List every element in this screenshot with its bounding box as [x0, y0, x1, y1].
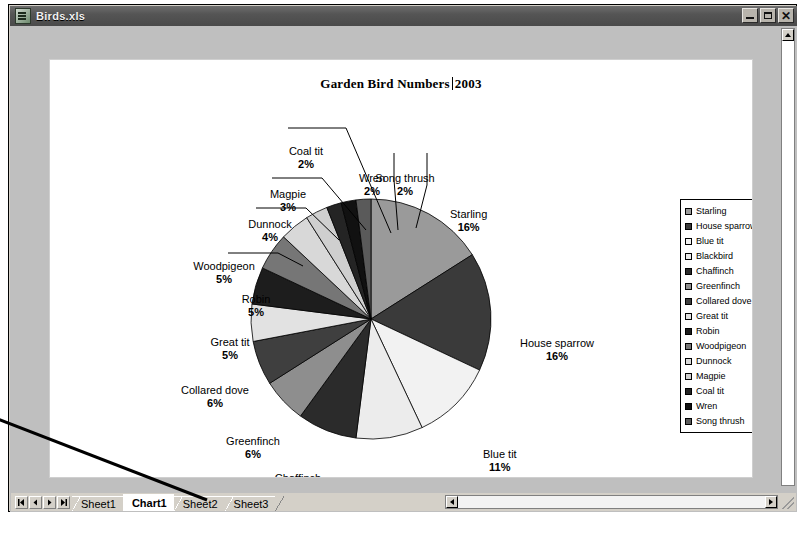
scroll-up-button[interactable] [782, 29, 794, 41]
legend-item[interactable]: Woodpigeon [685, 339, 753, 354]
close-button[interactable]: ✕ [778, 8, 794, 23]
pie-data-label[interactable]: Blue tit11% [483, 448, 517, 474]
excel-document-icon [15, 8, 31, 24]
legend-swatch-icon [685, 328, 692, 335]
pie-data-label[interactable]: House sparrow16% [520, 337, 594, 363]
legend-swatch-icon [685, 388, 692, 395]
legend-item-label: Magpie [696, 372, 726, 381]
legend-swatch-icon [685, 358, 692, 365]
legend-item[interactable]: Greenfinch [685, 279, 753, 294]
plot-area[interactable] [50, 60, 753, 478]
pie-data-label[interactable]: Chaffinch8% [275, 472, 321, 478]
sheet-tab-chart1[interactable]: Chart1 [123, 494, 174, 511]
legend-swatch-icon [685, 373, 692, 380]
last-sheet-button[interactable] [57, 496, 70, 509]
sheet-tab-sheet3[interactable]: Sheet3 [225, 496, 276, 511]
pie-data-label[interactable]: Song thrush2% [375, 172, 434, 198]
legend-swatch-icon [685, 238, 692, 245]
horizontal-scroll-track[interactable] [458, 496, 765, 508]
legend-item-label: Robin [696, 327, 720, 336]
pie-data-label-name: Song thrush [375, 172, 434, 184]
pie-data-label[interactable]: Starling16% [450, 208, 487, 234]
close-icon: ✕ [781, 10, 791, 22]
legend-item[interactable]: Blue tit [685, 234, 753, 249]
pie-data-label[interactable]: Dunnock4% [248, 218, 291, 244]
pie-data-label-name: Great tit [210, 336, 249, 348]
pie-data-label[interactable]: Coal tit2% [289, 145, 323, 171]
chevron-left-icon [450, 499, 454, 505]
legend-swatch-icon [685, 253, 692, 260]
legend-swatch-icon [685, 298, 692, 305]
legend-swatch-icon [685, 283, 692, 290]
pie-data-label[interactable]: Collared dove6% [181, 384, 249, 410]
chart-legend[interactable]: StarlingHouse sparrowBlue titBlackbirdCh… [680, 199, 753, 433]
legend-item-label: Woodpigeon [696, 342, 746, 351]
pie-data-label-percent: 5% [242, 306, 271, 319]
sheet-tab-label: Sheet2 [183, 498, 218, 510]
vertical-scrollbar[interactable] [781, 28, 795, 486]
pie-chart-svg [50, 60, 753, 478]
pie-data-label-percent: 5% [193, 273, 255, 286]
pie-data-label[interactable]: Woodpigeon5% [193, 260, 255, 286]
previous-sheet-icon [31, 498, 40, 507]
maximize-button[interactable] [760, 8, 776, 23]
previous-sheet-button[interactable] [29, 496, 42, 509]
pie-data-label-percent: 4% [248, 231, 291, 244]
legend-item[interactable]: Chaffinch [685, 264, 753, 279]
pie-data-label[interactable]: Robin5% [242, 293, 271, 319]
last-sheet-icon [59, 498, 68, 507]
legend-item[interactable]: Robin [685, 324, 753, 339]
legend-item[interactable]: House sparrow [685, 219, 753, 234]
sheet-tab-label: Chart1 [132, 497, 167, 509]
sheet-tab-sheet2[interactable]: Sheet2 [174, 496, 225, 511]
pie-data-label[interactable]: Greenfinch6% [226, 435, 280, 461]
minimize-button[interactable] [742, 8, 758, 23]
scroll-left-button[interactable] [446, 496, 458, 508]
pie-data-label-name: House sparrow [520, 337, 594, 349]
resize-grip[interactable] [780, 495, 794, 509]
sheet-tab-sheet1[interactable]: Sheet1 [72, 496, 123, 511]
legend-item[interactable]: Great tit [685, 309, 753, 324]
legend-item[interactable]: Song thrush [685, 414, 753, 429]
pie-data-label[interactable]: Magpie3% [270, 188, 306, 214]
legend-item-label: Great tit [696, 312, 728, 321]
pie-data-label-percent: 2% [289, 158, 323, 171]
sheet-tabs-end-divider [275, 496, 284, 511]
maximize-icon [764, 12, 772, 19]
legend-item[interactable]: Dunnock [685, 354, 753, 369]
scroll-right-button[interactable] [765, 496, 777, 508]
legend-item[interactable]: Wren [685, 399, 753, 414]
first-sheet-button[interactable] [15, 496, 28, 509]
first-sheet-icon [17, 498, 26, 507]
pie-data-label[interactable]: Great tit5% [210, 336, 249, 362]
horizontal-scroll-area [445, 494, 796, 510]
horizontal-scrollbar[interactable] [445, 495, 778, 509]
pie-data-label-name: Chaffinch [275, 472, 321, 478]
pie-data-label-name: Greenfinch [226, 435, 280, 447]
pie-data-label-percent: 16% [450, 221, 487, 234]
pie-data-label-percent: 2% [375, 185, 434, 198]
pie-data-label-name: Collared dove [181, 384, 249, 396]
legend-item[interactable]: Starling [685, 204, 753, 219]
pie-data-label-name: Dunnock [248, 218, 291, 230]
chevron-up-icon [785, 33, 791, 37]
window-title-text: Birds.xls [36, 10, 85, 22]
sheet-tab-label: Sheet3 [234, 498, 269, 510]
legend-item-label: Chaffinch [696, 267, 734, 276]
legend-item-label: Dunnock [696, 357, 732, 366]
legend-swatch-icon [685, 313, 692, 320]
legend-swatch-icon [685, 403, 692, 410]
window-title-bar[interactable]: Birds.xls ✕ [10, 6, 797, 26]
legend-item[interactable]: Magpie [685, 369, 753, 384]
legend-item[interactable]: Coal tit [685, 384, 753, 399]
legend-item-label: Song thrush [696, 417, 745, 426]
legend-item[interactable]: Blackbird [685, 249, 753, 264]
window-controls: ✕ [742, 8, 794, 23]
chart-canvas[interactable]: Garden Bird Numbers2003 Starling16%House… [49, 59, 753, 478]
legend-items: StarlingHouse sparrowBlue titBlackbirdCh… [685, 204, 753, 429]
next-sheet-button[interactable] [43, 496, 56, 509]
chevron-right-icon [769, 499, 773, 505]
legend-item[interactable]: Collared dove [685, 294, 753, 309]
pie-data-label-percent: 3% [270, 201, 306, 214]
legend-item-label: Coal tit [696, 387, 724, 396]
